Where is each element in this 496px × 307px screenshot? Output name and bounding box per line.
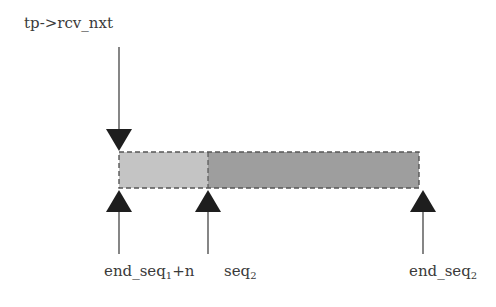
end-seq2-arrow <box>410 190 436 254</box>
end-seq1-suffix: +n <box>172 262 194 280</box>
end-seq2-base: end_seq <box>409 262 471 280</box>
seq2-arrow <box>195 190 221 254</box>
diagram-canvas <box>0 0 496 307</box>
end-seq1-arrow <box>106 190 132 254</box>
seq2-base: seq <box>224 262 250 280</box>
end-seq1-label: end_seq1+n <box>104 262 194 281</box>
buffer-box <box>119 152 419 188</box>
end-seq1-base: end_seq <box>104 262 166 280</box>
end-seq2-sub: 2 <box>471 270 477 281</box>
segment-2 <box>208 152 419 188</box>
seq2-sub: 2 <box>250 270 256 281</box>
rcv-nxt-label: tp->rcv_nxt <box>24 14 113 32</box>
end-seq2-label: end_seq2 <box>409 262 477 281</box>
seq2-label: seq2 <box>224 262 257 281</box>
segment-1 <box>119 152 208 188</box>
rcv-nxt-arrow <box>106 47 132 151</box>
